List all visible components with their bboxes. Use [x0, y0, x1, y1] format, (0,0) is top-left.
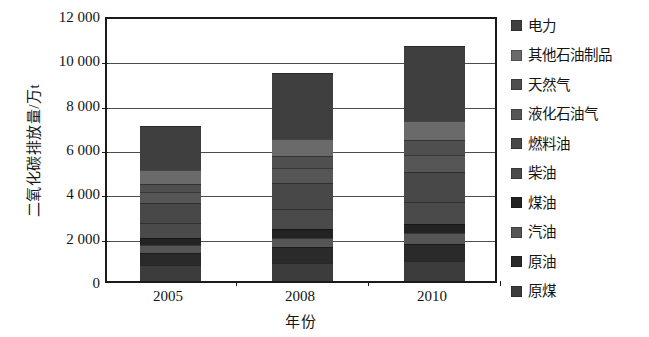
legend-item-label: 电力	[528, 18, 556, 34]
bar-segment[interactable]	[272, 238, 333, 248]
legend-item[interactable]: 汽油	[511, 218, 649, 248]
x-axis-tick-label: 2005	[128, 288, 208, 305]
bar-2010[interactable]	[404, 46, 465, 281]
bar-segment[interactable]	[272, 209, 333, 229]
legend-item-label: 原煤	[528, 283, 556, 299]
y-axis-tick-label: 6 000	[36, 142, 100, 158]
legend-swatch-icon	[511, 138, 522, 149]
legend-item-label: 原油	[528, 254, 556, 270]
legend-swatch-icon	[511, 79, 522, 90]
legend-item[interactable]: 煤油	[511, 188, 649, 218]
x-axis-tick-labels: 200520082010	[105, 288, 497, 310]
bar-segment[interactable]	[404, 172, 465, 202]
y-axis-tick-mark	[102, 63, 108, 64]
legend-item[interactable]: 燃料油	[511, 129, 649, 159]
legend-swatch-icon	[511, 109, 522, 120]
bar-segment[interactable]	[272, 73, 333, 140]
bar-2008[interactable]	[272, 73, 333, 281]
y-axis-tick-labels: 12 00010 0008 0006 0004 0002 0000	[36, 8, 100, 298]
bar-segment[interactable]	[272, 168, 333, 183]
legend-item-label: 燃料油	[528, 136, 570, 152]
chart-legend: 电力其他石油制品天然气液化石油气燃料油柴油煤油汽油原油原煤	[511, 11, 649, 311]
legend-item[interactable]: 电力	[511, 11, 649, 41]
y-axis-tick-label: 2 000	[36, 231, 100, 247]
x-axis-tick-label: 2008	[260, 288, 340, 305]
bar-segment[interactable]	[404, 244, 465, 261]
y-axis-tick-mark	[102, 152, 108, 153]
bar-segment[interactable]	[404, 46, 465, 121]
legend-item[interactable]: 原油	[511, 247, 649, 277]
legend-item-label: 柴油	[528, 165, 556, 181]
legend-item[interactable]: 柴油	[511, 159, 649, 189]
bar-segment[interactable]	[140, 192, 201, 203]
bar-segment[interactable]	[404, 261, 465, 281]
x-axis-tick-mark	[500, 281, 501, 286]
y-axis-tick-label: 8 000	[36, 98, 100, 114]
y-axis-tick-label: 4 000	[36, 186, 100, 202]
legend-item[interactable]: 原煤	[511, 277, 649, 307]
bar-segment[interactable]	[140, 170, 201, 183]
bar-segment[interactable]	[404, 202, 465, 224]
legend-swatch-icon	[511, 197, 522, 208]
bar-segment[interactable]	[404, 140, 465, 154]
bar-segment[interactable]	[140, 265, 201, 281]
legend-swatch-icon	[511, 50, 522, 61]
legend-swatch-icon	[511, 168, 522, 179]
bar-segment[interactable]	[404, 155, 465, 172]
bar-2005[interactable]	[140, 126, 201, 281]
y-axis-tick-label: 0	[36, 275, 100, 291]
bar-segment[interactable]	[140, 126, 201, 170]
legend-item[interactable]: 其他石油制品	[511, 41, 649, 71]
plot-area	[105, 17, 497, 283]
x-axis-tick-mark	[368, 281, 369, 286]
bar-segment[interactable]	[404, 121, 465, 140]
bar-segment[interactable]	[140, 253, 201, 265]
bar-segment[interactable]	[140, 184, 201, 193]
legend-item[interactable]: 天然气	[511, 70, 649, 100]
y-axis-tick-label: 12 000	[36, 9, 100, 25]
bar-segment[interactable]	[272, 263, 333, 281]
x-axis-tick-mark	[236, 281, 237, 286]
legend-item-label: 其他石油制品	[528, 47, 612, 63]
bar-segment[interactable]	[272, 183, 333, 210]
bar-segment[interactable]	[272, 156, 333, 168]
x-axis-title: 年份	[105, 310, 497, 331]
legend-swatch-icon	[511, 256, 522, 267]
y-axis-tick-label: 10 000	[36, 53, 100, 69]
legend-swatch-icon	[511, 20, 522, 31]
bar-segment[interactable]	[140, 223, 201, 238]
x-axis-tick-label: 2010	[392, 288, 472, 305]
y-axis-tick-mark	[102, 196, 108, 197]
bar-segment[interactable]	[140, 203, 201, 223]
bar-segment[interactable]	[140, 245, 201, 253]
legend-item-label: 汽油	[528, 224, 556, 240]
y-axis-tick-mark	[102, 108, 108, 109]
legend-item-label: 液化石油气	[528, 106, 598, 122]
y-axis-tick-mark	[102, 241, 108, 242]
legend-item[interactable]: 液化石油气	[511, 100, 649, 130]
bar-segment[interactable]	[272, 139, 333, 155]
legend-item-label: 天然气	[528, 77, 570, 93]
legend-swatch-icon	[511, 227, 522, 238]
bar-segment[interactable]	[404, 233, 465, 244]
bar-segment[interactable]	[140, 238, 201, 245]
bar-segment[interactable]	[272, 229, 333, 237]
bar-segment[interactable]	[272, 247, 333, 263]
stacked-bar-chart-figure: 二氧化碳排放量/万t 12 00010 0008 0006 0004 0002 …	[0, 0, 649, 337]
legend-swatch-icon	[511, 286, 522, 297]
legend-item-label: 煤油	[528, 195, 556, 211]
bar-segment[interactable]	[404, 224, 465, 233]
